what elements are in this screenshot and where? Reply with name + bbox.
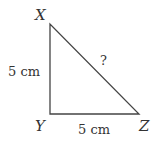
vertex-label-y: Y [35, 117, 47, 135]
triangle-xyz [50, 24, 139, 114]
vertex-label-z: Z [138, 117, 150, 135]
vertex-label-x: X [34, 6, 47, 24]
side-label-xy: 5 cm [8, 64, 40, 79]
side-label-yz: 5 cm [78, 122, 110, 137]
triangle-diagram: X Y Z 5 cm 5 cm ? [0, 0, 157, 142]
side-label-xz-unknown: ? [100, 53, 107, 68]
